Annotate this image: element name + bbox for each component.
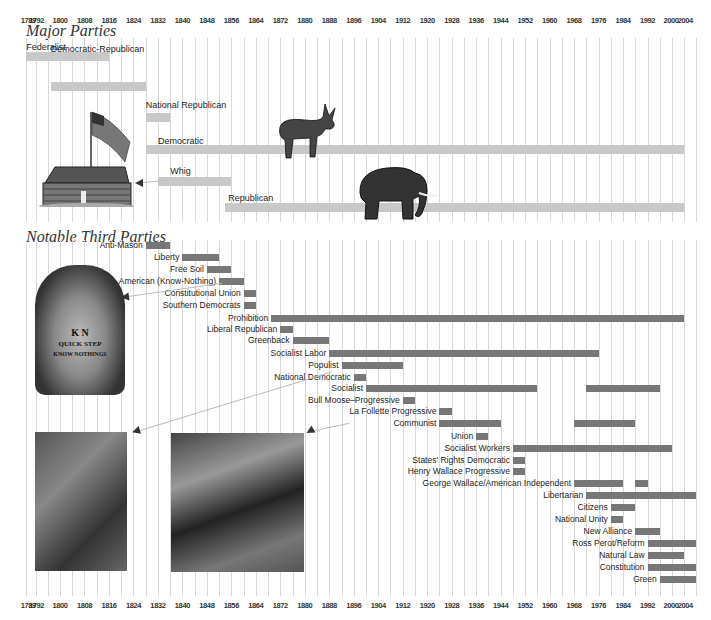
gridline <box>170 38 171 222</box>
year-tick-label: 1944 <box>493 16 508 25</box>
sheet-music-knownothings: KNOW NOTHINGS <box>35 351 125 357</box>
year-tick-label: 1992 <box>640 601 655 610</box>
third-party-label-george-wallace-american-independent: George Wallace/American Independent <box>423 478 572 488</box>
gridline <box>684 38 685 222</box>
third-party-bar-communist <box>574 420 635 427</box>
year-tick-label: 1888 <box>322 601 337 610</box>
major-party-bar-whig <box>158 177 231 186</box>
gridline <box>452 240 453 596</box>
year-tick-label: 1816 <box>101 601 116 610</box>
gridline <box>26 240 27 596</box>
year-tick-label: 1848 <box>199 601 214 610</box>
third-party-label-socialist-workers: Socialist Workers <box>444 443 510 453</box>
gridline <box>599 38 600 222</box>
third-party-bar-constitution <box>648 564 697 571</box>
third-party-bar-bull-moose-progressive <box>403 397 415 404</box>
major-party-label-democratic-republican: Democratic-Republican <box>51 44 145 54</box>
third-party-bar-prohibition <box>271 315 684 322</box>
third-party-bar-socialist <box>586 385 659 392</box>
gridline <box>378 240 379 596</box>
third-party-bar-socialist <box>366 385 537 392</box>
year-tick-label: 1800 <box>52 601 67 610</box>
third-party-label-constitution: Constitution <box>600 562 645 572</box>
gridline <box>464 240 465 596</box>
third-party-label-new-alliance: New Alliance <box>584 526 633 536</box>
third-party-bar-socialist-workers <box>513 445 672 452</box>
year-tick-label: 1872 <box>273 16 288 25</box>
major-party-bar-democratic <box>146 145 685 154</box>
third-party-label-union: Union <box>451 431 473 441</box>
year-tick-label: 1840 <box>175 16 190 25</box>
third-party-bar-libertarian <box>586 492 696 499</box>
third-party-label-greenback: Greenback <box>248 335 290 345</box>
gridline <box>586 38 587 222</box>
year-tick-label: 1856 <box>224 601 239 610</box>
gridline <box>525 38 526 222</box>
year-tick-label: 1856 <box>224 16 239 25</box>
gridline <box>342 38 343 222</box>
year-tick-label: 2000 <box>663 16 678 25</box>
gridline <box>476 240 477 596</box>
gridline <box>501 240 502 596</box>
third-party-label-free-soil: Free Soil <box>170 264 204 274</box>
year-tick-label: 1928 <box>444 16 459 25</box>
year-tick-label: 1984 <box>615 16 630 25</box>
year-tick-label: 1928 <box>444 601 459 610</box>
third-party-bar-la-follette-progressive <box>439 408 451 415</box>
gridline <box>525 240 526 596</box>
gridline <box>195 38 196 222</box>
third-party-bar-national-unity <box>611 516 623 523</box>
third-party-label-la-follette-progressive: La Follette Progressive <box>350 406 437 416</box>
photo-socialist-candidate <box>35 432 127 571</box>
year-tick-label: 1952 <box>518 601 533 610</box>
year-tick-label: 1872 <box>273 601 288 610</box>
sheet-music-quickstep: QUICK STEP <box>35 340 125 348</box>
photo-two-men-talking <box>171 433 304 572</box>
year-tick-label: 1920 <box>420 601 435 610</box>
gridline <box>207 38 208 222</box>
gridline <box>439 240 440 596</box>
whig-pointer-arrow-icon <box>135 179 143 187</box>
gridline <box>342 240 343 596</box>
year-tick-label: 2004 <box>678 16 693 25</box>
major-party-bar-democratic-republican <box>51 82 146 91</box>
third-party-bar-southern-democrats <box>244 302 256 309</box>
gridline <box>562 38 563 222</box>
third-party-label-southern-democrats: Southern Democrats <box>163 300 241 310</box>
major-party-bar-republican <box>225 203 684 212</box>
third-party-label-populist: Populist <box>308 360 338 370</box>
gridline <box>488 38 489 222</box>
third-party-label-communist: Communist <box>393 418 436 428</box>
third-party-bar-citizens <box>611 504 635 511</box>
gridline <box>133 38 134 222</box>
year-tick-label: 1864 <box>248 16 263 25</box>
third-party-bar-george-wallace-american-independent <box>635 480 647 487</box>
year-tick-label: 1864 <box>248 601 263 610</box>
gridline <box>672 38 673 222</box>
gridline <box>513 38 514 222</box>
gridline <box>623 38 624 222</box>
gridline <box>513 240 514 596</box>
year-tick-label: 1912 <box>395 601 410 610</box>
gridline <box>648 38 649 222</box>
third-party-label-national-unity: National Unity <box>555 514 608 524</box>
major-party-label-republican: Republican <box>228 193 273 203</box>
gridline <box>366 240 367 596</box>
year-tick-label: 1808 <box>77 601 92 610</box>
third-party-bar-liberty <box>182 254 219 261</box>
gridline <box>696 240 697 596</box>
third-party-bar-socialist-labor <box>329 350 598 357</box>
third-party-label-citizens: Citizens <box>578 502 608 512</box>
major-party-bar-national-republican <box>146 113 170 122</box>
year-tick-label: 1832 <box>150 601 165 610</box>
year-tick-label: 1880 <box>297 16 312 25</box>
year-tick-label: 1984 <box>615 601 630 610</box>
gridline <box>305 240 306 596</box>
gridline <box>219 38 220 222</box>
third-party-bar-green <box>660 576 697 583</box>
year-tick-label: 1968 <box>567 16 582 25</box>
third-party-bar-populist <box>342 362 403 369</box>
know-nothing-pointer-arrow-icon <box>120 292 129 301</box>
gridline <box>133 240 134 596</box>
third-party-label-green: Green <box>633 574 657 584</box>
